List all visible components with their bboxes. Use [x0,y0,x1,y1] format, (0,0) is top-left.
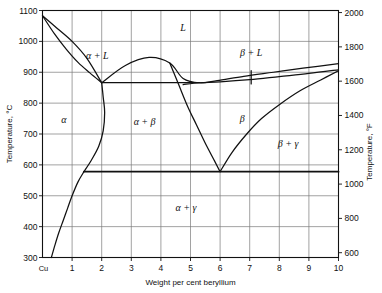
svg-text:6: 6 [218,263,223,273]
svg-text:600: 600 [345,248,359,258]
grid-lines [43,11,339,258]
svg-text:400: 400 [23,222,37,232]
phase-label-beta: β [239,113,245,124]
svg-text:3: 3 [129,263,134,273]
phase-label-alpha-plus-liquid: α + L [86,50,109,61]
y-axis-right-title: Temperature, °F [365,123,374,181]
phase-diagram-svg: 1234567891030040050060070080090010001100… [0,0,382,293]
phase-label-beta-plus-liquid: β + L [239,47,263,58]
invariant-reaction-lines [84,83,339,172]
x-axis-origin-label: Cu [39,264,49,273]
svg-text:2: 2 [99,263,104,273]
phase-label-beta-plus-gamma: β + γ [277,138,300,149]
curve-alpha-solvus [51,172,84,258]
svg-text:600: 600 [23,160,37,170]
svg-text:1100: 1100 [19,6,38,16]
phase-label-alpha: α [61,114,67,125]
phase-label-liquid: L [179,22,186,33]
svg-text:500: 500 [23,191,37,201]
svg-text:1200: 1200 [345,145,364,155]
svg-text:1: 1 [70,263,75,273]
svg-text:8: 8 [277,263,282,273]
axis-tick-labels: 1234567891030040050060070080090010001100… [19,6,364,273]
svg-text:300: 300 [23,253,37,263]
svg-text:2000: 2000 [345,8,364,18]
x-axis-title: Weight per cent beryllium [145,278,235,287]
svg-text:700: 700 [23,129,37,139]
svg-text:1600: 1600 [345,76,364,86]
svg-text:4: 4 [159,263,164,273]
svg-text:800: 800 [23,98,37,108]
svg-text:7: 7 [247,263,252,273]
curve-beta-solvus-left [170,63,220,172]
svg-text:1000: 1000 [345,179,364,189]
phase-label-alpha-plus-beta: α + β [134,116,156,127]
svg-text:10: 10 [334,263,344,273]
y-axis-left-title: Temperature, °C [5,105,14,164]
svg-text:9: 9 [307,263,312,273]
phase-diagram-figure: 1234567891030040050060070080090010001100… [0,0,382,293]
svg-text:900: 900 [23,67,37,77]
svg-text:5: 5 [188,263,193,273]
svg-text:1400: 1400 [345,110,364,120]
svg-text:800: 800 [345,213,359,223]
phase-label-alpha-plus-gamma: α + γ [176,202,198,213]
svg-text:1800: 1800 [345,42,364,52]
svg-text:1000: 1000 [19,36,38,46]
